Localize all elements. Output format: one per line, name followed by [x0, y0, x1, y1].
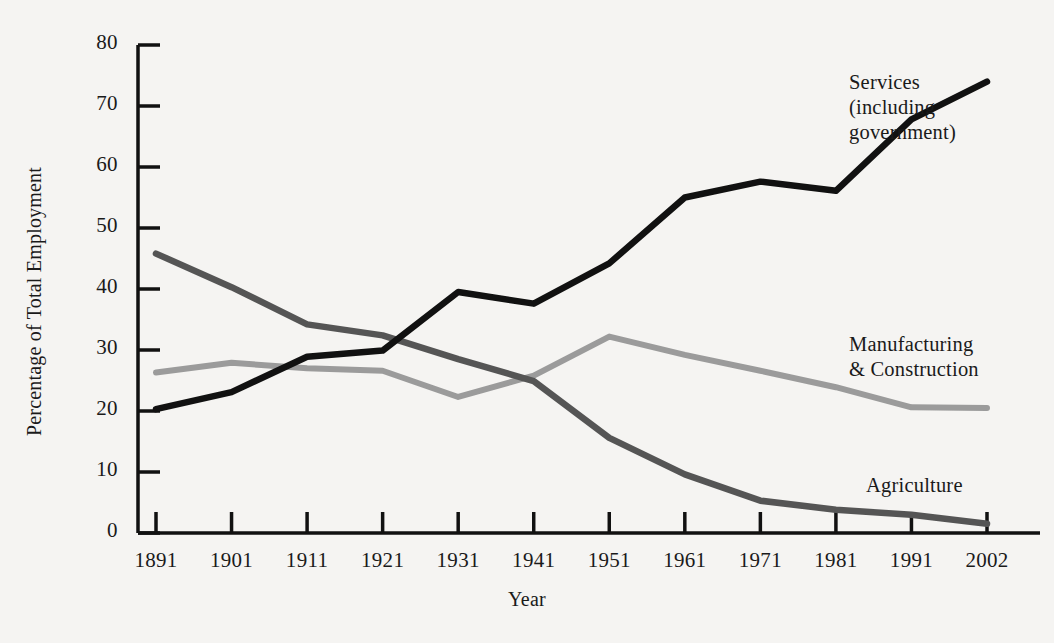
y-axis-tick-label: 0	[58, 518, 118, 543]
y-axis-tick-label: 60	[58, 152, 118, 177]
y-axis-tick-label: 20	[58, 396, 118, 421]
series-label-agriculture: Agriculture	[866, 473, 963, 498]
y-axis-tick-label: 10	[58, 457, 118, 482]
y-axis-tick-label: 50	[58, 213, 118, 238]
x-axis-ticks	[156, 512, 987, 533]
y-axis-tick-label: 40	[58, 274, 118, 299]
y-axis-label: Percentage of Total Employment	[23, 92, 46, 512]
series-lines	[156, 82, 987, 524]
employment-line-chart: Percentage of Total Employment Year 0102…	[0, 0, 1054, 643]
series-label-services: Services (including government)	[849, 70, 956, 145]
y-axis-ticks	[138, 45, 160, 533]
y-axis-tick-label: 30	[58, 335, 118, 360]
x-axis-tick-label: 2002	[942, 548, 1032, 573]
y-axis-tick-label: 80	[58, 30, 118, 55]
series-label-manufacturing: Manufacturing & Construction	[849, 332, 979, 382]
x-axis-label: Year	[0, 588, 1054, 611]
y-axis-tick-label: 70	[58, 91, 118, 116]
series-line-agriculture	[156, 254, 987, 524]
